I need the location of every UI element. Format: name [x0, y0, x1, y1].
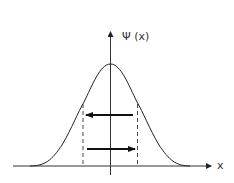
x-axis-label: x — [217, 159, 224, 172]
y-axis-label: Ψ (x) — [122, 30, 149, 43]
wavefunction-diagram: Ψ (x) x — [0, 0, 234, 183]
